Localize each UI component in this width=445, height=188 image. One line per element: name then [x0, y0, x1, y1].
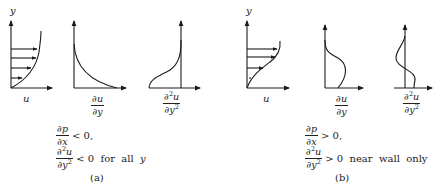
panel-b-condition-curvature: ∂2u∂y2 > 0 near wall only [305, 147, 428, 170]
panel-b-dudy-label: ∂u ∂y [335, 94, 348, 117]
panel-b-u-label: u [263, 94, 269, 104]
velocity-curve [11, 31, 41, 88]
panel-b-second-derivative-plot [394, 25, 432, 88]
panel-a-y-axis-label: y [10, 6, 16, 16]
panel-a-velocity-profile-plot [11, 21, 52, 88]
panel-a-d2udy2-label: ∂2u ∂y2 [163, 92, 180, 115]
panel-a-dudy-label: ∂u ∂y [91, 94, 104, 117]
panel-a-condition-pressure: ∂p∂x < 0, [56, 124, 93, 147]
panel-b-d2udy2-label: ∂2u ∂y2 [403, 92, 420, 115]
panel-b-caption: (b) [335, 172, 349, 183]
panel-a-caption: (a) [90, 172, 104, 183]
panel-a-second-derivative-plot [149, 21, 200, 88]
panel-b-y-axis-label: y [246, 6, 252, 16]
panel-b-first-derivative-plot [325, 25, 363, 88]
panel-a-first-derivative-plot [74, 21, 126, 88]
panel-b-velocity-profile-plot [247, 21, 289, 88]
panel-b-condition-pressure: ∂p∂x > 0, [305, 124, 342, 147]
panel-a-u-label: u [23, 94, 29, 104]
panel-a-condition-curvature: ∂2u∂y2 < 0 for all y [56, 147, 146, 170]
